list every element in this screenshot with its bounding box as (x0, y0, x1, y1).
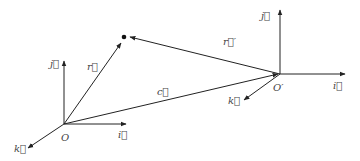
label-vec-r: r⃗ (87, 61, 98, 72)
frame-o-prime (244, 10, 345, 100)
label-op-j: j⃗ (259, 10, 270, 21)
vector-diagram: j⃗ r⃗ c⃗ i⃗ O k⃗ r⃗′ j⃗ O′ i⃗ k⃗ (0, 0, 360, 161)
point-dot (122, 35, 127, 40)
vector-r-prime-arrow (130, 37, 280, 74)
label-o-k: k⃗ (14, 143, 26, 154)
label-vec-c: c⃗ (157, 86, 169, 97)
vector-r-arrow (64, 43, 121, 124)
label-origin-o-prime: O′ (273, 82, 284, 93)
label-op-k: k⃗ (228, 95, 240, 106)
label-vec-r-prime: r⃗′ (223, 36, 237, 47)
axis-o-k-arrow (28, 124, 64, 148)
label-origin-o: O (61, 132, 69, 143)
label-op-i: i⃗ (333, 80, 342, 91)
vectors (64, 37, 280, 124)
label-o-i: i⃗ (118, 129, 127, 140)
frame-o (28, 61, 126, 148)
label-o-j: j⃗ (48, 58, 59, 69)
